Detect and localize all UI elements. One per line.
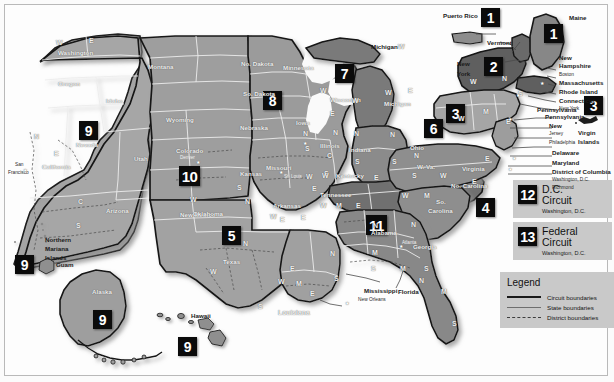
richmond-marker: ★ [508, 167, 512, 172]
badge-9-pacific-islands[interactable]: 9 [15, 255, 34, 274]
badge-8-dakotas[interactable]: 8 [263, 91, 282, 110]
atlanta-marker: ★ [399, 244, 403, 249]
map-page: 1 1 2 3 3 4 5 6 7 8 9 9 9 9 10 11 12 D.C… [0, 0, 614, 382]
badge-5-texas[interactable]: 5 [222, 226, 241, 245]
badge-9-nevada[interactable]: 9 [79, 121, 98, 140]
federal-circuit-name-line2: Circuit [542, 237, 586, 248]
legend-label-state: State boundaries [547, 304, 594, 311]
badge-7-wisconsin[interactable]: 7 [335, 64, 354, 83]
legend-row-circuit: Circuit boundaries [507, 292, 607, 302]
federal-circuit-box[interactable]: 13 Federal Circuit Washington, D.C. [513, 222, 612, 260]
dc-circuit-box[interactable]: 12 D.C. Circuit Washington, D.C. [513, 180, 612, 218]
state-boundary-swatch [507, 307, 541, 308]
badge-11-alabama[interactable]: 11 [366, 215, 387, 235]
circuit-boundary-swatch [507, 296, 541, 298]
washington-dc-marker: ★ [512, 156, 516, 161]
us-circuits-map: 1 1 2 3 3 4 5 6 7 8 9 9 9 9 10 11 12 D.C… [0, 0, 614, 382]
legend-label-circuit: Circuit boundaries [547, 294, 597, 301]
dc-circuit-location: Washington, D.C. [542, 208, 586, 214]
denver-marker: ★ [196, 160, 200, 165]
badge-13-federal-circuit: 13 [518, 227, 537, 246]
badge-2-new-york[interactable]: 2 [484, 57, 503, 76]
st-louis-marker: ★ [279, 170, 283, 175]
badge-1-puerto-rico[interactable]: 1 [481, 8, 500, 27]
san-francisco-marker: ★ [23, 168, 27, 173]
badge-10-colorado[interactable]: 10 [179, 166, 200, 186]
badge-9-hawaii[interactable]: 9 [178, 337, 197, 356]
region-gulf-5th [280, 230, 340, 302]
new-orleans-marker: ★ [345, 301, 349, 306]
badge-12-dc-circuit: 12 [518, 185, 537, 204]
badge-3-mid-atlantic[interactable]: 3 [446, 104, 465, 123]
legend-title: Legend [507, 277, 607, 288]
chicago-marker: ★ [303, 141, 307, 146]
legend-row-district: District boundaries [507, 312, 607, 322]
district-boundary-swatch [507, 317, 541, 318]
philadelphia-marker: ★ [508, 117, 512, 122]
badge-4-carolinas[interactable]: 4 [476, 198, 495, 217]
virgin-islands-shape [575, 116, 598, 124]
dc-circuit-name-line2: Circuit [542, 195, 586, 206]
boston-marker: ★ [540, 81, 544, 86]
legend: Legend Circuit boundaries State boundari… [500, 272, 614, 328]
new-york-marker: ★ [516, 93, 520, 98]
badge-3-virgin-islands[interactable]: 3 [584, 96, 603, 115]
legend-row-state: State boundaries [507, 302, 607, 312]
federal-circuit-location: Washington, D.C. [542, 250, 586, 256]
badge-1-maine[interactable]: 1 [544, 24, 563, 43]
badge-9-alaska[interactable]: 9 [93, 310, 112, 329]
legend-label-district: District boundaries [547, 314, 598, 321]
badge-6-ohio[interactable]: 6 [424, 119, 443, 138]
